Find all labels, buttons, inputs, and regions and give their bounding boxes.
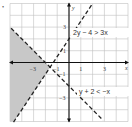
- inequality-label-2: y + 2 < −x: [79, 88, 110, 96]
- inequality-graph: −3−11331−1−3xy 2y − 4 > 3x y + 2 < −x: [0, 0, 132, 127]
- svg-text:x: x: [124, 65, 128, 71]
- svg-text:−1: −1: [59, 71, 65, 77]
- shaded-solution-region: [10, 27, 50, 121]
- svg-text:3: 3: [63, 24, 66, 30]
- svg-text:−3: −3: [59, 95, 65, 101]
- inequality-label-1: 2y − 4 > 3x: [73, 29, 108, 37]
- svg-text:y: y: [71, 5, 75, 11]
- svg-text:1: 1: [79, 66, 82, 72]
- tick-labels: −3−11331−1−3xy: [30, 5, 128, 101]
- svg-text:1: 1: [63, 48, 66, 54]
- axes: [9, 3, 129, 123]
- svg-text:3: 3: [103, 66, 106, 72]
- svg-text:−3: −3: [30, 66, 36, 72]
